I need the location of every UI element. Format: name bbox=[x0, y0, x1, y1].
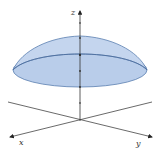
z-axis-label: z bbox=[70, 8, 76, 17]
z-tick bbox=[79, 86, 81, 88]
x-axis-label: x bbox=[19, 138, 24, 147]
3d-dome-diagram: z x y bbox=[0, 0, 163, 158]
z-tick bbox=[79, 22, 81, 24]
y-axis-label: y bbox=[135, 139, 141, 148]
z-tick bbox=[79, 37, 81, 39]
z-tick bbox=[79, 70, 81, 72]
z-tick bbox=[79, 102, 81, 104]
z-tick bbox=[79, 54, 81, 56]
